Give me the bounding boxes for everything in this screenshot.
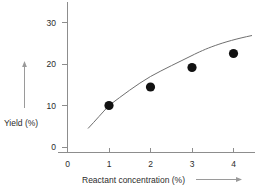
y-arrow-head [22, 61, 27, 67]
y-tick-label-30: 30 [47, 18, 57, 28]
x-tick-label-0: 0 [65, 159, 70, 169]
scatter-plot: 30 20 10 0 0 1 2 3 4 [0, 0, 261, 189]
data-point [146, 82, 155, 91]
x-tick-label-1: 1 [107, 159, 112, 169]
x-tick-label-4: 4 [231, 159, 236, 169]
y-tick-label-10: 10 [47, 101, 57, 111]
chart-screenshot: 30 20 10 0 0 1 2 3 4 [0, 0, 261, 189]
y-tick-label-20: 20 [47, 59, 57, 69]
y-tick-label-0: 0 [51, 142, 56, 152]
x-arrow-head [236, 177, 242, 182]
data-point [229, 49, 238, 58]
y-axis-title: Yield (%) [4, 118, 38, 128]
y-axis-direction-arrow [22, 61, 27, 108]
data-point-group [104, 49, 238, 110]
x-tick-label-2: 2 [148, 159, 153, 169]
x-axis-direction-arrow [196, 177, 242, 182]
data-point [187, 63, 196, 72]
x-axis-title: Reactant concentration (%) [82, 175, 185, 185]
x-axis-ticks [68, 148, 234, 153]
data-point [104, 101, 113, 110]
x-tick-label-3: 3 [190, 159, 195, 169]
y-axis-ticks [62, 23, 68, 148]
best-fit-curve [88, 36, 252, 129]
